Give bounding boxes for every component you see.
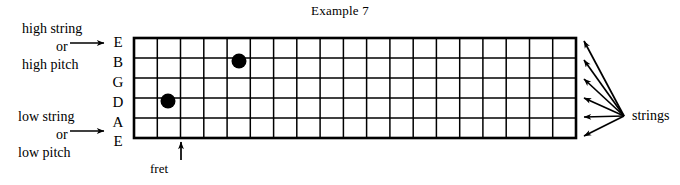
strings-arrow-g [584,79,624,116]
fretboard-border [134,38,576,138]
string-lines [134,58,576,118]
note-dot-d-string-fret-1[interactable] [161,94,176,109]
strings-arrow-e-low [584,116,624,136]
strings-arrow-e-high [584,41,624,116]
fretboard-diagram: Example 7 high string or high pitch low … [0,0,680,185]
diagram-vector-layer [0,0,680,185]
strings-arrow-fan [584,41,624,136]
note-dot-b-string-fret-5[interactable] [232,54,247,69]
strings-arrow-a [584,116,624,117]
fret-lines [157,38,552,138]
